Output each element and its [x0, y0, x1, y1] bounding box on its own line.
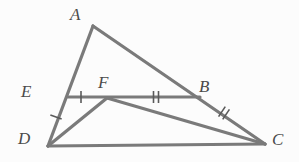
geometry-canvas — [0, 0, 299, 162]
vertex-label-e: E — [21, 83, 31, 100]
vertex-label-c: C — [272, 131, 283, 148]
segment-group — [48, 26, 265, 146]
vertex-label-f: F — [98, 74, 108, 91]
vertex-label-a: A — [70, 6, 80, 23]
segment-DC — [48, 144, 265, 146]
segment-AC — [93, 26, 265, 144]
vertex-label-d: D — [18, 130, 30, 147]
geometry-figure: A E F B D C — [0, 0, 299, 162]
vertex-label-b: B — [199, 78, 209, 95]
segment-FC — [107, 98, 265, 144]
